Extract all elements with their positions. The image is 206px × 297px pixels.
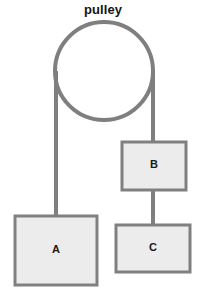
pulley-wheel-icon [55, 22, 153, 120]
diagram-canvas [0, 0, 206, 297]
pulley-diagram: pulley A B C [0, 0, 206, 297]
block-b [122, 142, 186, 190]
block-a [15, 216, 97, 285]
block-c [116, 225, 190, 272]
